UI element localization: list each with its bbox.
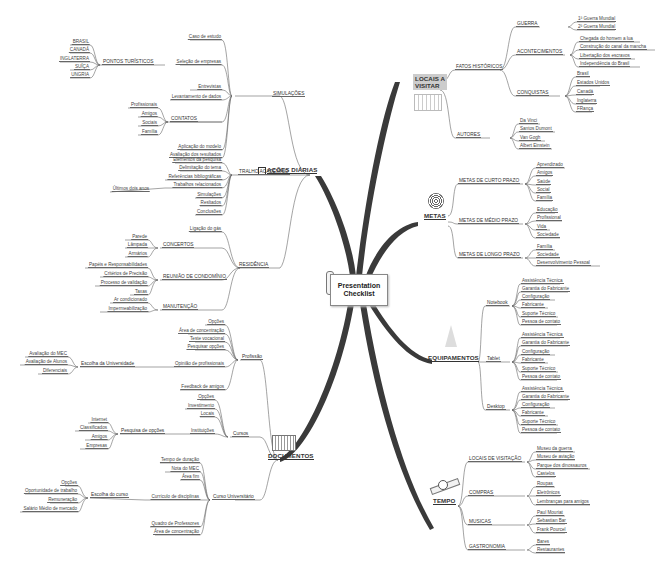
leaf[interactable]: 1ª Guerra Mundial: [577, 16, 616, 22]
topic-metas-longo-prazo[interactable]: METAS DE LONGO PRAZO: [458, 252, 521, 258]
topic-metas-curto-prazo[interactable]: METAS DE CURTO PRAZO: [458, 178, 520, 184]
leaf[interactable]: Opinião de profissionais: [174, 361, 225, 367]
leaf[interactable]: Assistência Técnica: [521, 386, 564, 392]
leaf[interactable]: Amigos: [536, 170, 553, 176]
leaf[interactable]: Ligação do gás: [189, 226, 222, 232]
leaf[interactable]: Pesquisar opções: [186, 344, 225, 350]
leaf[interactable]: Configuração: [521, 349, 550, 355]
leaf[interactable]: Salário Médio de mercado: [22, 506, 78, 512]
topic-manutencao[interactable]: MANUTENÇÃO: [162, 304, 198, 310]
leaf[interactable]: Elementos da pesquisa: [172, 157, 222, 163]
leaf[interactable]: INGLATERRA: [59, 56, 90, 62]
leaf[interactable]: Pessoa de contato: [521, 374, 561, 380]
leaf[interactable]: Libertação dos escravos: [579, 53, 631, 59]
leaf[interactable]: Currículo de disciplinas: [151, 494, 201, 500]
leaf[interactable]: Tempo de duração: [160, 457, 200, 463]
leaf[interactable]: Garantia do Fabricante: [521, 340, 570, 346]
leaf[interactable]: Inglaterra: [576, 98, 597, 104]
leaf[interactable]: Castelos: [536, 471, 556, 477]
leaf[interactable]: Família: [536, 244, 553, 250]
topic-metas-medio-prazo[interactable]: METAS DE MÉDIO PRAZO: [458, 218, 519, 224]
leaf[interactable]: Delimitação do tema: [178, 165, 222, 171]
leaf[interactable]: Restaurantes: [536, 547, 565, 553]
topic-concertos[interactable]: CONCERTOS: [162, 242, 194, 248]
branch-locais-a-visitar[interactable]: LOCAIS A VISITAR: [413, 74, 447, 90]
leaf[interactable]: Lembranças para amigos: [536, 499, 590, 505]
leaf[interactable]: Referências bibliográficas: [167, 174, 222, 180]
leaf[interactable]: Levantamento de dados: [171, 94, 222, 100]
leaf[interactable]: Museu da guerra: [536, 446, 573, 452]
topic-conquistas[interactable]: CONQUISTAS: [516, 90, 549, 96]
leaf[interactable]: Suporte Técnico: [521, 366, 556, 372]
topic-acontecimentos[interactable]: ACONTECIMENTOS: [516, 49, 563, 55]
leaf[interactable]: Parque dos dinossauros: [536, 463, 588, 469]
leaf[interactable]: Teste vocacional: [189, 336, 225, 342]
topic-trabalho-academico[interactable]: TRALHO ACADÊMICO: [238, 169, 290, 175]
topic-curso-universitario[interactable]: Curso Universitário: [212, 494, 255, 500]
leaf[interactable]: Garantia do Fabricante: [521, 394, 570, 400]
leaf[interactable]: Sociedade: [536, 252, 560, 258]
leaf[interactable]: Lâmpada: [127, 242, 148, 248]
leaf[interactable]: Pessoa de contato: [521, 427, 561, 433]
leaf[interactable]: Educação: [536, 207, 558, 213]
leaf[interactable]: Assistência Técnica: [521, 278, 564, 284]
leaf[interactable]: Área de concentração: [153, 529, 200, 535]
topic-pesquisa-opcoes[interactable]: Pesquisa de opções: [120, 428, 165, 434]
leaf[interactable]: Aprendizado: [536, 162, 564, 168]
topic-guerra[interactable]: GUERRA: [516, 21, 539, 27]
leaf[interactable]: Garantia do Fabricante: [521, 286, 570, 292]
leaf[interactable]: Família: [141, 129, 158, 135]
leaf[interactable]: Fabricante: [521, 302, 545, 308]
leaf[interactable]: Família: [536, 195, 553, 201]
leaf[interactable]: Profissional: [536, 215, 562, 221]
leaf[interactable]: Nota do MEC: [170, 466, 200, 472]
leaf[interactable]: Museu de aviação: [536, 454, 575, 460]
leaf[interactable]: Fabricante: [521, 410, 545, 416]
leaf[interactable]: Internet: [90, 417, 108, 423]
branch-documentos[interactable]: DOCUMENTOS: [268, 452, 314, 460]
leaf[interactable]: Últimos dois anos: [112, 186, 150, 192]
topic-tablet[interactable]: Tablet: [486, 356, 501, 362]
topic-desktop[interactable]: Desktop: [486, 404, 506, 410]
leaf[interactable]: Parede: [131, 234, 148, 240]
leaf[interactable]: Opções: [197, 394, 215, 400]
leaf[interactable]: Avaliação do MEC: [28, 351, 68, 357]
leaf[interactable]: Pessoa de contato: [521, 319, 561, 325]
leaf[interactable]: Da Vinci: [519, 118, 538, 124]
leaf[interactable]: Albert Einstein: [519, 143, 551, 149]
leaf[interactable]: Desenvolvimento Pessoal: [536, 260, 591, 266]
leaf[interactable]: Oportunidade de trabalho: [24, 488, 78, 494]
leaf[interactable]: SUÍÇA: [74, 64, 90, 70]
leaf[interactable]: Trabalhos relacionados: [172, 182, 222, 188]
leaf[interactable]: Empresas: [85, 443, 108, 449]
leaf[interactable]: Armários: [128, 251, 148, 257]
leaf[interactable]: Brasil: [576, 71, 590, 77]
leaf[interactable]: Chegada do homem a lua: [579, 36, 634, 42]
leaf[interactable]: Amigos: [91, 434, 108, 440]
leaf[interactable]: Vida: [536, 224, 547, 230]
leaf[interactable]: Saúde: [536, 179, 551, 185]
leaf[interactable]: Resltados: [200, 200, 222, 206]
topic-notebook[interactable]: Notebook: [486, 300, 509, 306]
topic-reuniao-condominio[interactable]: REUNIÃO DE CONDOMÍNIO: [162, 274, 227, 280]
branch-tempo[interactable]: TEMPO: [433, 497, 456, 505]
leaf[interactable]: Aplicação do modelo: [177, 144, 222, 150]
leaf[interactable]: BRASIL: [72, 39, 90, 45]
leaf[interactable]: Fabricante: [521, 357, 545, 363]
leaf[interactable]: Entrevistas: [197, 84, 222, 90]
leaf[interactable]: Papéis e Responsabilidades: [88, 262, 148, 268]
leaf[interactable]: Classificados: [79, 425, 108, 431]
topic-profissao[interactable]: Profissão: [241, 354, 263, 360]
leaf[interactable]: Área de concentração: [178, 328, 225, 334]
leaf[interactable]: UNGRIA: [70, 72, 90, 78]
topic-autores[interactable]: AUTORES: [456, 132, 481, 138]
leaf[interactable]: Santos Dumont: [519, 126, 553, 132]
leaf[interactable]: Suporte Técnico: [521, 311, 556, 317]
leaf[interactable]: Seleção de empresas: [176, 59, 222, 65]
leaf[interactable]: Roupas: [536, 481, 554, 487]
topic-compras[interactable]: COMPRAS: [468, 490, 494, 496]
branch-equipamentos[interactable]: EQUIPAMENTOS: [428, 354, 479, 362]
leaf[interactable]: Canadá: [576, 89, 594, 95]
leaf[interactable]: Sociais: [141, 120, 158, 126]
topic-cursos[interactable]: Cursos: [232, 431, 249, 437]
